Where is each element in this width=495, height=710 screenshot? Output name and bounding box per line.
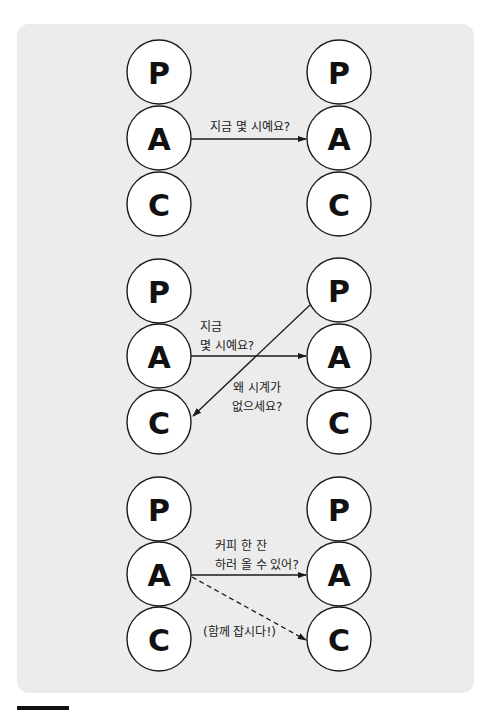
node-label: P: [148, 275, 170, 310]
edge-label: 없으세요?: [232, 400, 282, 414]
node-label: C: [328, 188, 350, 223]
left-ego-states: P A C: [127, 40, 191, 236]
node-label: A: [327, 340, 351, 375]
edge-label: 몇 시예요?: [200, 339, 254, 353]
node-label: P: [148, 56, 170, 91]
node-label: C: [148, 188, 170, 223]
node-label: A: [147, 558, 171, 593]
node-label: P: [328, 493, 350, 528]
footer-accent-bar: [17, 706, 69, 710]
right-ego-states: P A C: [307, 40, 371, 236]
node-label: C: [328, 623, 350, 658]
edge-label: 왜 시계가: [233, 381, 281, 395]
right-ego-states: P A C: [307, 477, 371, 671]
edge-label: 지금 몇 시예요?: [210, 120, 290, 134]
left-ego-states: P A C: [127, 477, 191, 671]
diagram-group-3: P A C P A C 커피 한 잔 하러 올 수 있어? (함께 잡시다!): [127, 477, 371, 671]
node-label: P: [328, 274, 350, 309]
node-label: A: [147, 122, 171, 157]
edge-label: (함께 잡시다!): [203, 625, 276, 639]
node-label: C: [148, 406, 170, 441]
node-label: C: [328, 406, 350, 441]
edge-label: 커피 한 잔: [215, 539, 267, 553]
node-label: C: [148, 623, 170, 658]
node-label: A: [327, 558, 351, 593]
pac-transaction-diagram: P A C P A C 지금 몇 시예요? P A C P: [0, 0, 495, 710]
diagram-group-1: P A C P A C 지금 몇 시예요?: [127, 40, 371, 236]
node-label: A: [147, 340, 171, 375]
node-label: P: [328, 56, 350, 91]
node-label: A: [327, 122, 351, 157]
node-label: P: [148, 493, 170, 528]
right-ego-states: P A C: [307, 258, 371, 454]
edge-label: 하러 올 수 있어?: [215, 558, 299, 572]
edge-label: 지금: [200, 320, 222, 334]
left-ego-states: P A C: [127, 259, 191, 454]
diagram-group-2: P A C P A C 지금 몇 시예요? 왜 시계가 없으세요?: [127, 258, 371, 454]
